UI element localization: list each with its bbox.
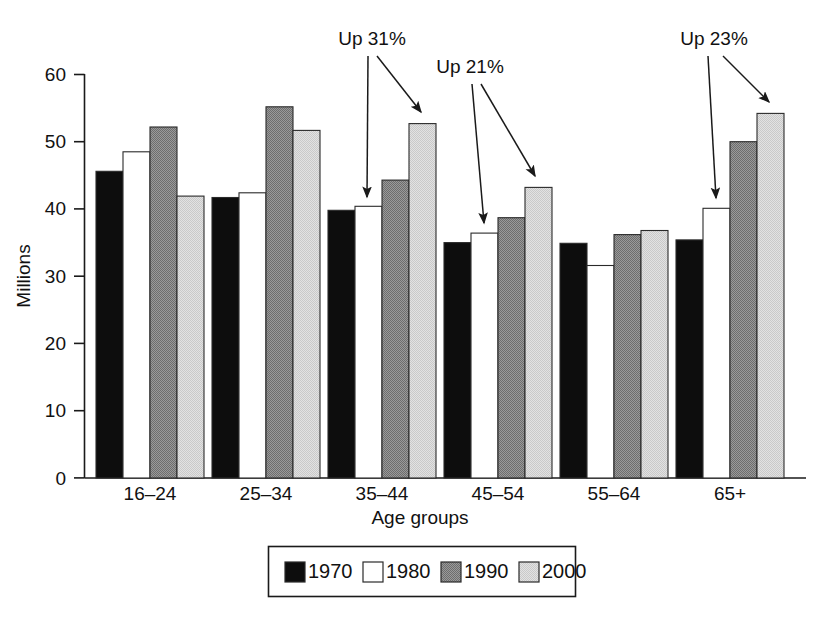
bar-1970-45-54 bbox=[444, 243, 471, 478]
bar-1990-16-24 bbox=[150, 127, 177, 478]
y-tick-label-30: 30 bbox=[45, 266, 66, 287]
bar-2000-45-54 bbox=[525, 187, 552, 478]
bar-group-65plus bbox=[676, 113, 784, 478]
y-axis-title: Millions bbox=[13, 244, 34, 307]
bar-1970-25-34 bbox=[212, 198, 239, 479]
bar-1970-16-24 bbox=[96, 171, 123, 478]
y-tick-label-50: 50 bbox=[45, 131, 66, 152]
x-tick-label-16-24: 16–24 bbox=[124, 483, 177, 504]
legend-swatch-2000 bbox=[519, 562, 539, 582]
annotation-arrow-up-31-to-2000 bbox=[377, 56, 421, 112]
bar-1990-25-34 bbox=[266, 107, 293, 478]
annotation-arrow-up-23-to-2000 bbox=[723, 56, 769, 102]
annotation-up-21: Up 21% bbox=[436, 56, 535, 223]
bar-group-55-64 bbox=[560, 231, 668, 479]
legend-swatch-1990 bbox=[441, 562, 461, 582]
annotation-arrow-up-21-to-1980 bbox=[472, 84, 484, 223]
annotation-arrow-up-31-to-1980 bbox=[367, 56, 368, 197]
bar-group-35-44 bbox=[328, 124, 436, 478]
legend-label-1980: 1980 bbox=[386, 560, 431, 582]
bar-2000-16-24 bbox=[177, 196, 204, 478]
legend-label-1990: 1990 bbox=[464, 560, 509, 582]
legend: 1970 1980 1990 2000 bbox=[269, 547, 587, 597]
x-tick-label-45-54: 45–54 bbox=[472, 483, 525, 504]
annotation-arrow-up-23-to-1980 bbox=[708, 56, 716, 198]
bar-1980-25-34 bbox=[239, 193, 266, 478]
legend-item-1980[interactable]: 1980 bbox=[363, 560, 431, 582]
y-axis: 60 50 40 30 20 10 0 Millions bbox=[13, 64, 85, 489]
bar-1990-35-44 bbox=[382, 180, 409, 478]
bar-1980-16-24 bbox=[123, 152, 150, 478]
bar-1980-65plus bbox=[703, 208, 730, 478]
legend-label-1970: 1970 bbox=[308, 560, 353, 582]
legend-item-1990[interactable]: 1990 bbox=[441, 560, 509, 582]
x-tick-label-55-64: 55–64 bbox=[588, 483, 641, 504]
bar-1980-45-54 bbox=[471, 233, 498, 478]
bar-group-25-34 bbox=[212, 107, 320, 478]
bar-1970-65plus bbox=[676, 240, 703, 478]
bar-1980-55-64 bbox=[587, 266, 614, 479]
legend-item-2000[interactable]: 2000 bbox=[519, 560, 587, 582]
bar-chart-figure: 60 50 40 30 20 10 0 Millions 16–24 25–34… bbox=[0, 0, 834, 634]
legend-item-1970[interactable]: 1970 bbox=[285, 560, 353, 582]
bar-2000-35-44 bbox=[409, 124, 436, 478]
x-axis: 16–24 25–34 35–44 45–54 55–64 65+ Age gr… bbox=[85, 478, 807, 528]
bar-group-16-24 bbox=[96, 127, 204, 478]
y-tick-label-0: 0 bbox=[55, 468, 66, 489]
annotation-label-up-21: Up 21% bbox=[436, 56, 504, 77]
bar-1970-55-64 bbox=[560, 243, 587, 478]
x-tick-label-25-34: 25–34 bbox=[240, 483, 293, 504]
bar-1970-35-44 bbox=[328, 210, 355, 478]
y-tick-label-10: 10 bbox=[45, 400, 66, 421]
x-tick-label-65plus: 65+ bbox=[714, 483, 746, 504]
y-tick-label-40: 40 bbox=[45, 198, 66, 219]
chart-canvas: 60 50 40 30 20 10 0 Millions 16–24 25–34… bbox=[0, 0, 834, 634]
y-tick-label-20: 20 bbox=[45, 333, 66, 354]
bar-1980-35-44 bbox=[355, 206, 382, 478]
bar-1990-45-54 bbox=[498, 218, 525, 478]
bar-2000-25-34 bbox=[293, 130, 320, 478]
annotation-label-up-23: Up 23% bbox=[680, 28, 748, 49]
bar-1990-65plus bbox=[730, 142, 757, 478]
annotation-arrow-up-21-to-2000 bbox=[481, 84, 535, 176]
annotation-label-up-31: Up 31% bbox=[338, 28, 406, 49]
x-tick-label-35-44: 35–44 bbox=[356, 483, 409, 504]
bar-1990-55-64 bbox=[614, 235, 641, 478]
bar-2000-55-64 bbox=[641, 231, 668, 479]
y-tick-label-60: 60 bbox=[45, 64, 66, 85]
bar-2000-65plus bbox=[757, 113, 784, 478]
legend-swatch-1980 bbox=[363, 562, 383, 582]
legend-label-2000: 2000 bbox=[542, 560, 587, 582]
x-axis-title: Age groups bbox=[371, 507, 468, 528]
legend-swatch-1970 bbox=[285, 562, 305, 582]
bar-group-45-54 bbox=[444, 187, 552, 478]
